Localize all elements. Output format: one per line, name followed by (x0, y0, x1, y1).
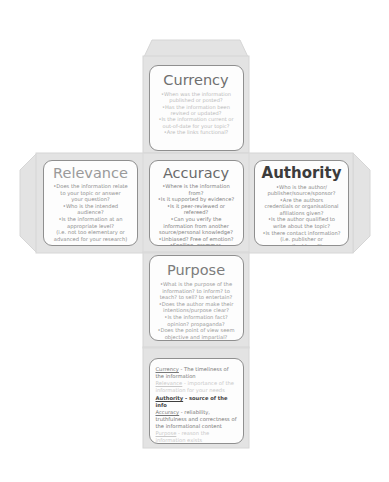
bullet-line: credentials or organisational (262, 203, 341, 210)
cube-face-summary: Currency - The timeliness of the informa… (149, 358, 244, 444)
bullet-line: email address?) (262, 243, 341, 246)
bullet-line: advanced for your research) (51, 236, 130, 243)
bullet-line: (i.e. not too elementary or (51, 229, 130, 236)
summary-entry: Authority - source of the info (156, 395, 237, 409)
cube-face-purpose: Purpose •What is the purpose of theinfor… (149, 255, 244, 341)
summary-term: Authority (156, 395, 184, 401)
bullet-line: •Is it supported by evidence? (156, 196, 237, 203)
cube-face-currency: Currency •When was the informationpublis… (149, 65, 244, 151)
face-bullets-relevance: •Does the information relateto your topi… (48, 183, 133, 242)
flap-left (20, 153, 37, 253)
bullet-line: •Does the point of view seem (157, 327, 236, 334)
face-bullets-currency: •When was the informationpublished or po… (154, 91, 239, 136)
bullet-line: •Is it peer-reviewed or refereed? (156, 203, 237, 216)
face-title-authority: Authority (262, 166, 342, 182)
face-bullets-accuracy: •Where is the information from?•Is it su… (154, 183, 239, 246)
bullet-line: source/personal knowledge? (156, 229, 237, 236)
bullet-line: •Spelling, grammar, (156, 242, 237, 246)
bullet-line: •Does the information relate (51, 183, 130, 190)
summary-legend: Currency - The timeliness of the informa… (156, 366, 237, 444)
face-title-relevance: Relevance (53, 166, 128, 181)
summary-entry: Relevance - importance of the informatio… (156, 380, 237, 394)
summary-entry: Purpose - reason the information exists (156, 430, 237, 444)
cube-face-relevance: Relevance •Does the information relateto… (43, 160, 138, 246)
face-bullets-purpose: •What is the purpose of theinformation? … (154, 281, 239, 340)
bullet-line: •Has the information been (157, 104, 236, 110)
cube-face-authority: Authority •Who is the author/publisher/s… (254, 160, 349, 246)
face-bullets-authority: •Who is the author/publisher/source/spon… (259, 184, 344, 246)
summary-term: Relevance (156, 380, 183, 386)
summary-term: Accuracy (156, 409, 180, 415)
bullet-line: •Is the information fact? (157, 314, 236, 321)
bullet-line: •What is the purpose of the (157, 281, 236, 288)
bullet-line: •Is the information at an (51, 216, 130, 223)
bullet-line: objective and impartial? (157, 334, 236, 341)
bullet-line: teach? to sell? to entertain? (157, 294, 236, 301)
bullet-line: •Is the information current or (157, 116, 236, 122)
summary-entry: Accuracy - reliability, truthfulness and… (156, 409, 237, 430)
flap-right (353, 153, 370, 253)
flap-top (144, 40, 248, 57)
bullet-line: •Where is the information from? (156, 183, 237, 196)
bullet-line: intentions/purpose clear? (157, 307, 236, 314)
summary-entry: Currency - The timeliness of the informa… (156, 366, 237, 380)
face-title-currency: Currency (163, 73, 228, 88)
summary-term: Currency (156, 366, 179, 372)
cube-face-accuracy: Accuracy •Where is the information from?… (149, 160, 244, 246)
bullet-line: write about the topic? (262, 223, 341, 230)
summary-term: Purpose (156, 430, 177, 436)
bullet-line: •Are the links functional? (157, 129, 236, 135)
face-title-accuracy: Accuracy (163, 166, 229, 181)
bullet-line: publisher/source/sponsor? (262, 190, 341, 197)
face-title-purpose: Purpose (167, 263, 225, 278)
